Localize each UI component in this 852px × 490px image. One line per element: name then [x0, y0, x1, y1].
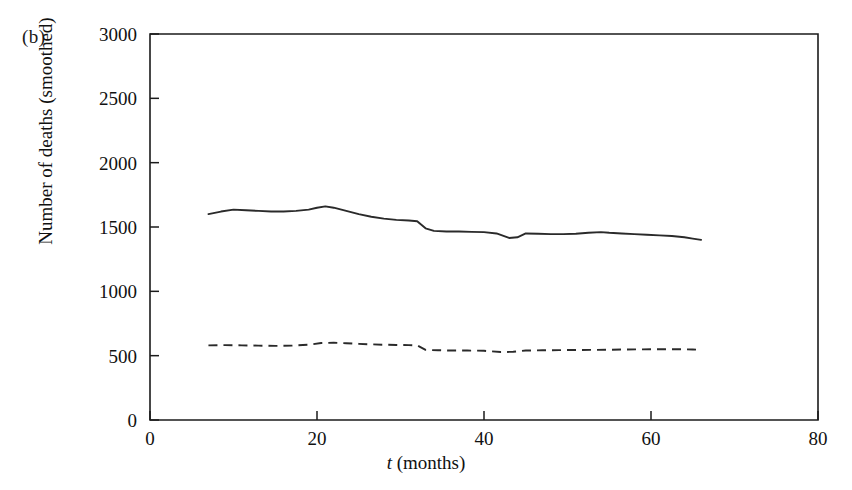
- y-tick-label: 3000: [99, 24, 137, 45]
- x-tick-label: 60: [642, 428, 661, 449]
- x-tick-label: 40: [475, 428, 494, 449]
- caption-sliver: [0, 483, 852, 490]
- y-tick-label: 2000: [99, 153, 137, 174]
- axis-frame: [150, 34, 818, 420]
- series-line-dashed: [208, 343, 701, 352]
- x-tick-label: 0: [145, 428, 155, 449]
- x-tick-label: 20: [308, 428, 327, 449]
- y-tick-label: 2500: [99, 88, 137, 109]
- x-tick-label: 80: [809, 428, 828, 449]
- series-line-solid: [208, 206, 701, 239]
- line-chart-canvas: 050010001500200025003000 020406080: [0, 0, 852, 490]
- figure-panel: (b) Number of deaths (smoothed) t (month…: [0, 0, 852, 490]
- x-tick-group: 020406080: [145, 411, 827, 449]
- axis-frame-path: [150, 34, 818, 420]
- y-tick-label: 500: [109, 346, 138, 367]
- y-tick-label: 1500: [99, 217, 137, 238]
- y-tick-label: 1000: [99, 281, 137, 302]
- y-tick-label: 0: [128, 410, 138, 431]
- series-group: [208, 206, 701, 352]
